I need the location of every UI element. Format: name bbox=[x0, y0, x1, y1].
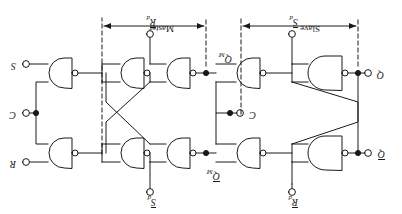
gate-g6-body bbox=[167, 58, 190, 88]
label-qm-bar: QM bbox=[207, 168, 220, 182]
span-slave-arrow-left bbox=[349, 23, 356, 29]
gate-g2-bubble bbox=[342, 70, 348, 76]
span-master-arrow-right bbox=[104, 23, 111, 29]
wire-cross-q-to-g1 bbox=[292, 73, 358, 144]
gate-g6-bubble bbox=[190, 70, 196, 76]
gate-g3-bubble bbox=[260, 150, 266, 156]
gate-g8-bubble bbox=[144, 70, 150, 76]
gate-g1-body bbox=[308, 136, 342, 170]
span-slave-arrow-right bbox=[243, 23, 250, 29]
circuit-diagram-figure: Q Q Rd Sd Sd Rd QM QM C R C bbox=[0, 0, 402, 214]
wire-r-top-in2 bbox=[36, 113, 48, 144]
terminal-r-port bbox=[23, 159, 30, 166]
gate-g3-body bbox=[237, 138, 260, 168]
gate-g1-bubble bbox=[342, 150, 348, 156]
terminal-q-port bbox=[365, 70, 372, 77]
wire-c-mid-branch bbox=[216, 113, 230, 144]
label-section-master: Master bbox=[149, 24, 174, 34]
gate-g5-bubble bbox=[190, 150, 196, 156]
gate-g7-bubble bbox=[144, 150, 150, 156]
terminal-c-mid-port bbox=[237, 110, 244, 117]
gate-r-top-bubble bbox=[72, 150, 78, 156]
label-sd-slave: Sd bbox=[290, 14, 299, 28]
label-rd-slave: Rd bbox=[288, 194, 298, 208]
label-q: Q bbox=[377, 70, 384, 80]
wire-master-cross-a bbox=[106, 73, 150, 144]
gate-g7-body bbox=[121, 138, 144, 168]
gate-r-top-body bbox=[49, 138, 72, 168]
label-sd-master: Sd bbox=[148, 194, 157, 208]
wire-master-cross-b bbox=[106, 82, 150, 153]
gate-g4-bubble bbox=[260, 70, 266, 76]
label-c-out: C bbox=[9, 110, 16, 120]
circuit-wiring-svg bbox=[0, 0, 402, 214]
label-s-out: S bbox=[11, 61, 16, 71]
gate-r-bot-body bbox=[49, 58, 72, 88]
span-master-arrow-left bbox=[197, 23, 204, 29]
rotated-figure-canvas: Q Q Rd Sd Sd Rd QM QM C R C bbox=[0, 0, 402, 214]
terminal-c-port bbox=[23, 110, 30, 117]
label-r-out: R bbox=[10, 159, 16, 169]
label-qm: QM bbox=[219, 51, 232, 64]
label-section-slave: Slave bbox=[300, 24, 320, 34]
gate-r-bot-bubble bbox=[72, 70, 78, 76]
label-c-mid: C bbox=[249, 110, 256, 120]
wire-cross-qbar-to-g2 bbox=[292, 82, 358, 153]
gate-g2-body bbox=[308, 56, 342, 90]
gate-g8-body bbox=[121, 58, 144, 88]
gate-g5-body bbox=[167, 138, 190, 168]
label-q-bar: Q bbox=[378, 149, 385, 160]
terminal-qbar-port bbox=[365, 150, 372, 157]
gate-g4-body bbox=[237, 58, 260, 88]
terminal-s-port bbox=[23, 61, 30, 68]
terminal-sd-port bbox=[289, 31, 296, 38]
wire-r-bot-in2 bbox=[36, 82, 48, 113]
